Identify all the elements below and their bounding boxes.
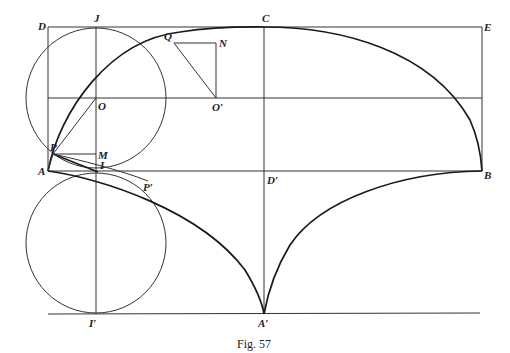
label-A: A — [37, 165, 45, 177]
lower-cycloid-right — [264, 171, 482, 314]
label-D: D — [37, 20, 46, 32]
upper-cycloid-arc — [48, 27, 482, 171]
cycloid-construction: D J C E Q N O O′ P M A I P′ D′ B I′ A′ F… — [0, 0, 510, 353]
label-P: P — [50, 141, 57, 153]
label-C: C — [262, 12, 270, 24]
label-B: B — [483, 169, 491, 181]
label-J: J — [93, 12, 100, 24]
label-Q: Q — [164, 30, 172, 42]
label-I: I — [99, 159, 105, 171]
label-E: E — [483, 21, 491, 33]
label-N: N — [218, 37, 228, 49]
segment-AP — [48, 154, 53, 171]
figure-caption: Fig. 57 — [237, 337, 271, 351]
segment-QO-prime — [174, 43, 216, 98]
label-P-prime: P′ — [143, 181, 153, 193]
label-O-prime: O′ — [212, 101, 223, 113]
label-I-prime: I′ — [88, 317, 96, 329]
label-D-prime: D′ — [266, 174, 278, 186]
label-O: O — [98, 100, 106, 112]
figure-57-diagram: D J C E Q N O O′ P M A I P′ D′ B I′ A′ F… — [0, 0, 510, 353]
lower-cycloid-left — [48, 171, 264, 314]
label-A-prime: A′ — [257, 317, 268, 329]
